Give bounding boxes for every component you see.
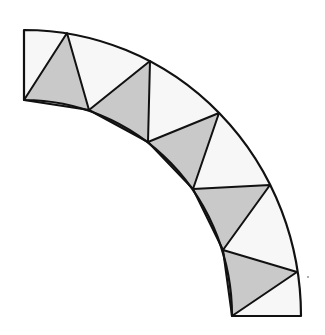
quarter-ring-triangles-figure [0,0,325,335]
diagram-canvas [0,0,325,335]
stray-dot [307,276,309,278]
